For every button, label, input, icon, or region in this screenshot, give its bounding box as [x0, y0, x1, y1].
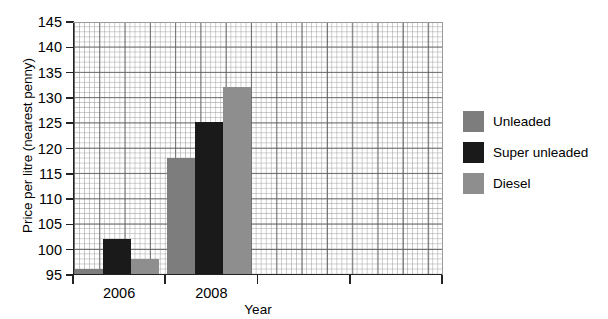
bar — [195, 122, 223, 274]
legend-label: Unleaded — [493, 115, 551, 129]
y-axis-tick-label: 110 — [24, 192, 62, 207]
plot-frame-right — [442, 22, 443, 275]
bar — [167, 158, 195, 274]
bar-chart: Price per litre (nearest penny) 14514013… — [0, 0, 608, 319]
legend-item: Unleaded — [463, 106, 588, 137]
bar — [131, 259, 159, 274]
legend-swatch — [463, 111, 484, 132]
y-axis-tick-label: 115 — [24, 167, 62, 182]
bar — [103, 239, 131, 274]
y-axis-tick-label: 140 — [24, 40, 62, 55]
y-axis-tick-label: 120 — [24, 142, 62, 157]
legend-label: Super unleaded — [493, 146, 588, 160]
legend-swatch — [463, 142, 484, 163]
y-axis-tick-label: 145 — [24, 15, 62, 30]
x-axis-tick — [164, 275, 166, 284]
bar — [75, 269, 103, 274]
y-axis-tick-label: 125 — [24, 116, 62, 131]
bar — [223, 87, 251, 274]
legend-item: Super unleaded — [463, 137, 588, 168]
legend-label: Diesel — [493, 177, 531, 191]
y-axis-tick-label: 130 — [24, 91, 62, 106]
x-axis-title: Year — [213, 302, 303, 317]
x-axis-tick — [257, 275, 259, 284]
y-axis-tick-label: 135 — [24, 66, 62, 81]
y-axis-tick-label: 100 — [24, 243, 62, 258]
x-axis-tick — [349, 275, 351, 284]
y-axis-tick-label: 105 — [24, 217, 62, 232]
x-axis-tick — [441, 275, 443, 284]
plot-frame-top — [73, 22, 442, 23]
x-axis-tick-label: 2006 — [73, 286, 165, 301]
y-axis-tick-label: 95 — [24, 268, 62, 283]
legend-item: Diesel — [463, 168, 588, 199]
legend-swatch — [463, 173, 484, 194]
x-axis-tick-label: 2008 — [165, 286, 257, 301]
plot-area — [73, 22, 442, 275]
x-axis-tick — [72, 275, 74, 284]
chart-legend: UnleadedSuper unleadedDiesel — [463, 106, 588, 199]
